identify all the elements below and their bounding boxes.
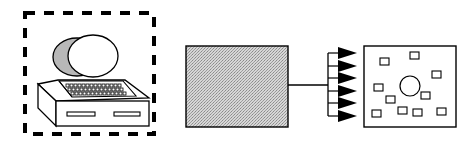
processor-block [186, 46, 288, 127]
computer-node [25, 13, 154, 134]
arrow-head-icon [338, 72, 357, 84]
arrow-head-icon [338, 110, 357, 122]
arrow-head-icon [338, 47, 357, 59]
desktop-computer-icon [38, 35, 149, 126]
keyboard-icon [59, 81, 136, 97]
arrow-head-icon [338, 85, 357, 97]
arrow-head-icon [338, 60, 357, 72]
output-field-node [364, 46, 456, 127]
arrow-head-icon [338, 97, 357, 109]
diagram-canvas [0, 0, 476, 147]
circle-shape [400, 76, 420, 96]
fan-out-arrows [328, 47, 357, 122]
